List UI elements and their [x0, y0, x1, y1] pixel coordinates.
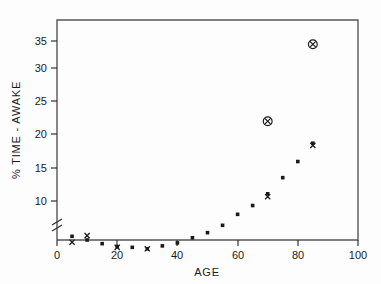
data-point-dot [161, 244, 165, 248]
data-point-dot [85, 238, 89, 242]
y-axis-ticks [51, 41, 57, 201]
data-point-dot [281, 176, 285, 180]
data-point-dot [236, 213, 240, 217]
x-tick-label: 80 [292, 249, 304, 261]
data-point-dot [100, 242, 104, 246]
data-point-dot [191, 236, 195, 240]
plot-frame [57, 20, 358, 240]
x-tick-label: 0 [54, 249, 60, 261]
x-tick-label: 20 [111, 249, 123, 261]
series-mean-dot [70, 141, 314, 250]
data-point-dot [221, 224, 225, 228]
x-axis-tick-labels: 0 20 40 60 80 100 [54, 249, 367, 261]
x-tick-label: 60 [232, 249, 244, 261]
y-axis-tick-labels: 35 30 25 20 15 10 [35, 35, 47, 207]
y-tick-label: 10 [35, 195, 47, 207]
data-point-dot [176, 241, 180, 245]
data-point-x [145, 246, 150, 251]
figure-container: 35 30 25 20 15 10 0 20 40 60 80 100 AGE [0, 0, 381, 284]
data-point-dot [206, 231, 210, 235]
y-tick-label: 30 [35, 62, 47, 74]
series-circled-x [263, 40, 317, 126]
caption-fragment [4, 270, 304, 280]
data-point-dot [251, 204, 255, 208]
data-point-dot [130, 246, 134, 250]
data-point-circled-x [265, 118, 271, 124]
data-point-dot [70, 235, 74, 239]
scatter-plot: 35 30 25 20 15 10 0 20 40 60 80 100 AGE [0, 0, 381, 284]
series-x-marker [69, 143, 315, 252]
x-tick-label: 40 [171, 249, 183, 261]
y-tick-label: 15 [35, 162, 47, 174]
data-point-dot [296, 160, 300, 164]
data-point-circled-x [310, 41, 316, 47]
y-axis-label: % TIME - AWAKE [10, 81, 22, 179]
y-tick-label: 25 [35, 95, 47, 107]
y-tick-label: 35 [35, 35, 47, 47]
data-point-x [85, 233, 90, 238]
x-tick-label: 100 [349, 249, 367, 261]
y-tick-label: 20 [35, 128, 47, 140]
